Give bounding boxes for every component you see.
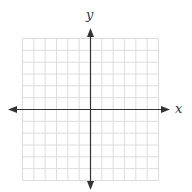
y-axis-top-arrow-icon <box>87 28 94 37</box>
coordinate-plane: y x <box>0 0 192 192</box>
axes <box>8 28 170 190</box>
x-axis-left-arrow-icon <box>8 106 17 113</box>
y-axis-label: y <box>85 7 94 22</box>
x-axis-right-arrow-icon <box>161 106 170 113</box>
y-axis-bottom-arrow-icon <box>87 181 94 190</box>
x-axis-label: x <box>175 101 183 116</box>
